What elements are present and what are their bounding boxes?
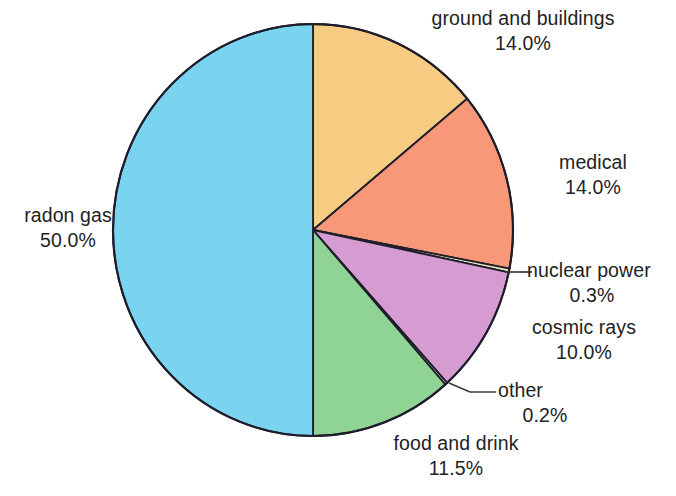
slice-label-radon-gas: radon gas 50.0%: [2, 203, 134, 253]
slice-label-value: 14.0%: [392, 31, 654, 56]
pie-slice-group: [113, 24, 513, 436]
slice-label-nuclear-power: nuclear power 0.3%: [527, 258, 675, 308]
slice-label-name: nuclear power: [527, 258, 675, 283]
pie-slice-radon-gas[interactable]: [113, 24, 313, 436]
slice-label-value: 0.3%: [527, 283, 675, 308]
slice-label-name: ground and buildings: [392, 6, 654, 31]
slice-label-name: radon gas: [2, 203, 134, 228]
leader-line-other: [449, 383, 496, 392]
slice-label-name: medical: [520, 150, 666, 175]
slice-label-value: 14.0%: [520, 175, 666, 200]
slice-label-value: 11.5%: [348, 456, 564, 481]
slice-label-cosmic-rays: cosmic rays 10.0%: [500, 315, 668, 365]
slice-label-food-and-drink: food and drink 11.5%: [348, 431, 564, 481]
pie-chart: ground and buildings 14.0% medical 14.0%…: [0, 0, 676, 496]
slice-label-name: food and drink: [348, 431, 564, 456]
slice-label-other: other 0.2%: [498, 378, 618, 428]
slice-label-name: cosmic rays: [500, 315, 668, 340]
slice-label-value: 50.0%: [2, 228, 134, 253]
slice-label-name: other: [498, 378, 618, 403]
slice-label-medical: medical 14.0%: [520, 150, 666, 200]
slice-label-value: 0.2%: [498, 403, 618, 428]
slice-label-ground-and-buildings: ground and buildings 14.0%: [392, 6, 654, 56]
slice-label-value: 10.0%: [500, 340, 668, 365]
